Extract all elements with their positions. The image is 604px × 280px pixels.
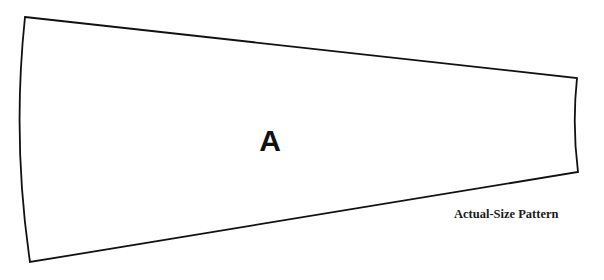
pattern-outline-path xyxy=(20,17,578,262)
pattern-piece-label: A xyxy=(252,124,288,158)
pattern-piece-outline xyxy=(0,0,604,280)
pattern-caption: Actual-Size Pattern xyxy=(454,206,558,222)
